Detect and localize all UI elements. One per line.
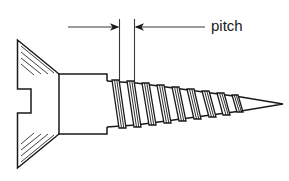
- pitch-label: pitch: [211, 17, 243, 34]
- screw-head-outline: [18, 40, 60, 168]
- thread-form: [187, 89, 201, 119]
- head-lower-hatching: [21, 133, 54, 162]
- screw-shank-outline-lower: [58, 127, 107, 134]
- thread-form: [157, 85, 171, 123]
- thread-root-bottom-line: [107, 111, 241, 127]
- screw-shank-outline: [58, 74, 107, 81]
- thread-form: [202, 91, 216, 117]
- thread-form: [127, 81, 141, 127]
- screw-drawing: pitch: [0, 0, 289, 181]
- thread-form: [142, 83, 156, 125]
- screw-shank-group: [58, 74, 107, 134]
- screw-point-outline: [241, 97, 283, 111]
- screw-pitch-diagram: pitch: [0, 0, 289, 181]
- pitch-dimension-group: pitch: [68, 17, 243, 86]
- screw-point-group: [241, 97, 283, 111]
- screw-head-group: [18, 40, 60, 168]
- head-upper-hatching: [21, 46, 54, 75]
- thread-form: [172, 87, 186, 121]
- thread-form: [112, 80, 126, 128]
- thread-form: [217, 93, 230, 115]
- screw-threads-group: [107, 80, 243, 128]
